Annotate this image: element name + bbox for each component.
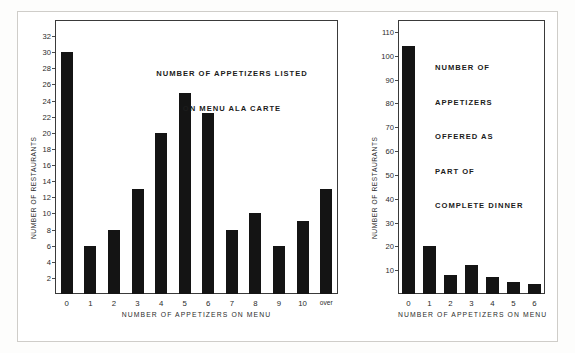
- x-tick-label: 8: [253, 299, 257, 308]
- y-tick-label: 80: [380, 99, 394, 108]
- y-tick-mark: [395, 223, 398, 224]
- y-tick-label: 24: [39, 96, 51, 105]
- x-tick-label: 6: [532, 299, 536, 308]
- bar: [465, 265, 478, 294]
- bar: [486, 277, 499, 294]
- x-tick-label: 2: [448, 299, 452, 308]
- y-tick-label: 12: [39, 193, 51, 202]
- x-axis-label-right: NUMBER OF APPETIZERS ON MENU: [398, 311, 545, 318]
- y-tick-label: 100: [380, 51, 394, 60]
- chart-title-line-1: NUMBER OF APPETIZERS LISTED: [137, 68, 327, 80]
- y-tick-mark: [52, 262, 55, 263]
- x-tick-label: 4: [159, 299, 163, 308]
- chart-panel-complete-dinner: NUMBER OF RESTAURANTS 102030405060708090…: [363, 11, 558, 342]
- x-tick-label: 4: [490, 299, 494, 308]
- y-tick-label: 90: [380, 75, 394, 84]
- y-tick-label: 30: [39, 48, 51, 57]
- y-tick-label: 10: [39, 209, 51, 218]
- y-tick-label: 10: [380, 266, 394, 275]
- bar: [132, 189, 144, 294]
- y-tick-mark: [395, 246, 398, 247]
- y-tick-mark: [395, 103, 398, 104]
- y-tick-mark: [52, 84, 55, 85]
- y-tick-mark: [52, 197, 55, 198]
- y-tick-mark: [395, 80, 398, 81]
- y-tick-label: 32: [39, 32, 51, 41]
- x-axis-label-left: NUMBER OF APPETIZERS ON MENU: [55, 311, 338, 318]
- y-tick-mark: [395, 270, 398, 271]
- chart-title-line-1: NUMBER OF: [435, 62, 550, 74]
- y-tick-mark: [395, 151, 398, 152]
- x-tick-label: 3: [135, 299, 139, 308]
- x-tick-label: 1: [88, 299, 92, 308]
- chart-title-ala-carte: NUMBER OF APPETIZERS LISTED ON MENU ALA …: [137, 45, 327, 137]
- y-tick-mark: [52, 133, 55, 134]
- y-tick-mark: [52, 278, 55, 279]
- bar: [507, 282, 520, 294]
- bar: [528, 284, 541, 294]
- chart-title-complete-dinner: NUMBER OF APPETIZERS OFFERED AS PART OF …: [435, 39, 550, 235]
- y-tick-label: 20: [39, 128, 51, 137]
- bar: [155, 133, 167, 294]
- figure-root: NUMBER OF RESTAURANTS 246810121416182022…: [0, 0, 575, 353]
- y-tick-label: 20: [380, 242, 394, 251]
- y-tick-mark: [52, 101, 55, 102]
- bar: [297, 221, 309, 294]
- y-tick-label: 14: [39, 177, 51, 186]
- y-tick-label: 2: [39, 273, 51, 282]
- x-tick-label: 0: [406, 299, 410, 308]
- y-tick-mark: [52, 117, 55, 118]
- x-tick-label: 5: [183, 299, 187, 308]
- y-tick-mark: [52, 52, 55, 53]
- chart-title-line-2: APPETIZERS: [435, 97, 550, 109]
- chart-title-line-2: ON MENU ALA CARTE: [137, 103, 327, 115]
- bar: [202, 113, 214, 294]
- y-tick-label: 40: [380, 194, 394, 203]
- x-tick-label: over: [320, 299, 333, 306]
- x-tick-label: 9: [277, 299, 281, 308]
- x-tick-label: 1: [427, 299, 431, 308]
- y-tick-label: 30: [380, 218, 394, 227]
- bar: [108, 230, 120, 294]
- y-tick-mark: [395, 175, 398, 176]
- y-tick-label: 110: [380, 27, 394, 36]
- y-tick-label: 60: [380, 147, 394, 156]
- y-tick-mark: [52, 149, 55, 150]
- y-tick-label: 16: [39, 161, 51, 170]
- y-tick-label: 4: [39, 257, 51, 266]
- x-tick-label: 5: [511, 299, 515, 308]
- bar: [226, 230, 238, 294]
- x-tick-label: 10: [298, 299, 307, 308]
- y-tick-mark: [52, 165, 55, 166]
- y-tick-label: 18: [39, 144, 51, 153]
- x-tick-label: 6: [206, 299, 210, 308]
- bar: [402, 46, 415, 294]
- y-axis-label-right: NUMBER OF RESTAURANTS: [371, 136, 378, 239]
- bar: [61, 52, 73, 294]
- y-tick-mark: [52, 246, 55, 247]
- x-tick-label: 0: [65, 299, 69, 308]
- y-tick-label: 50: [380, 170, 394, 179]
- x-tick-label: 3: [469, 299, 473, 308]
- chart-title-line-5: COMPLETE DINNER: [435, 200, 550, 212]
- bar: [444, 275, 457, 294]
- x-tick-label: 2: [112, 299, 116, 308]
- x-tick-label: 7: [230, 299, 234, 308]
- y-tick-mark: [395, 127, 398, 128]
- y-tick-label: 22: [39, 112, 51, 121]
- bar: [273, 246, 285, 294]
- bar: [84, 246, 96, 294]
- chart-panel-ala-carte: NUMBER OF RESTAURANTS 246810121416182022…: [17, 11, 347, 342]
- y-tick-mark: [52, 230, 55, 231]
- y-tick-label: 8: [39, 225, 51, 234]
- y-tick-mark: [52, 68, 55, 69]
- y-tick-label: 70: [380, 123, 394, 132]
- y-tick-mark: [395, 32, 398, 33]
- y-tick-label: 6: [39, 241, 51, 250]
- bar: [249, 213, 261, 294]
- y-tick-label: 28: [39, 64, 51, 73]
- y-tick-label: 26: [39, 80, 51, 89]
- chart-title-line-4: PART OF: [435, 166, 550, 178]
- y-axis-label-left: NUMBER OF RESTAURANTS: [30, 136, 37, 239]
- y-tick-mark: [52, 213, 55, 214]
